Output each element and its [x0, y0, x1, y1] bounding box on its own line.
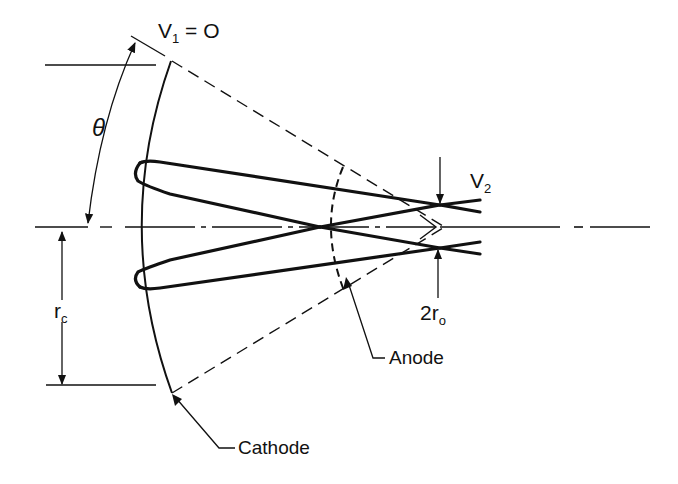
cathode-label: Cathode	[238, 438, 310, 457]
electron-gun-diagram: V1 = O V2 θ rc 2ro Anode Cathode	[0, 0, 678, 484]
electron-beam	[135, 161, 480, 289]
anode-leader	[348, 282, 385, 358]
ro-dimension	[438, 157, 440, 298]
ro-prefix: 2	[420, 301, 432, 324]
v1-base: V	[158, 19, 172, 42]
rc-base: r	[54, 299, 61, 322]
cathode-leader	[176, 398, 235, 448]
v2-sub: 2	[484, 181, 491, 196]
anode-label: Anode	[389, 348, 444, 367]
theta-label: θ	[92, 116, 105, 140]
rc-sub: c	[61, 311, 68, 326]
v1-rest: = O	[179, 19, 219, 42]
rc-label: rc	[54, 300, 68, 325]
v2-label: V2	[470, 170, 491, 195]
ro-base: r	[432, 301, 439, 324]
reference-lines	[45, 36, 165, 385]
v2-base: V	[470, 169, 484, 192]
v1-label: V1 = O	[158, 20, 220, 45]
diagram-canvas	[0, 0, 678, 484]
ro-label: 2ro	[420, 302, 446, 327]
ro-sub: o	[439, 313, 446, 328]
optical-axis	[35, 215, 650, 239]
